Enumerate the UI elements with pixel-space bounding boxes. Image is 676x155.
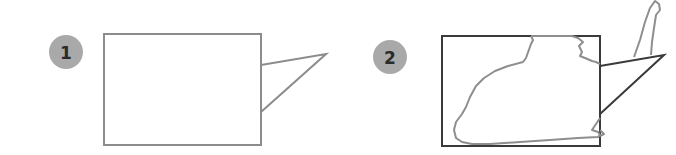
badge-number: 1 (60, 43, 72, 63)
badge-number: 2 (384, 48, 396, 68)
panel-1: 1 (49, 34, 326, 145)
empty-frame (104, 34, 261, 145)
diagram-canvas: 1 2 (0, 0, 676, 155)
content-frame (442, 36, 600, 146)
step-badge-2: 2 (373, 40, 407, 74)
irregular-outline-shape (454, 1, 660, 144)
callout-triangle (600, 55, 664, 114)
callout-triangle (261, 54, 326, 112)
step-badge-1: 1 (49, 35, 83, 69)
panel-2: 2 (373, 1, 664, 146)
